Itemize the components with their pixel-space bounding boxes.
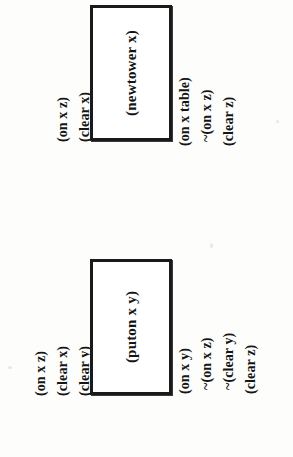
effect-literal: (clear z) [244, 345, 258, 394]
precondition-literal: (on x z) [56, 97, 70, 142]
scan-speck [210, 243, 213, 248]
precondition-literal: (clear x) [56, 346, 70, 396]
effect-literal: ~(on x z) [200, 89, 214, 142]
effect-literal: (clear z) [222, 97, 236, 146]
effect-literal: ~(clear y) [222, 333, 236, 390]
precondition-literal: (on x z) [34, 351, 48, 396]
figure-canvas: (on x z) (clear x) (newtower x) (on x ta… [0, 0, 293, 457]
operator-box-newtower: (newtower x) [90, 5, 172, 141]
effect-literal: (on x table) [178, 77, 192, 146]
operator-box-label: (puton x y) [123, 291, 140, 363]
scan-speck [276, 120, 279, 123]
effect-literal: (on x y) [178, 348, 192, 394]
operator-box-puton: (puton x y) [90, 259, 172, 395]
scan-speck [8, 366, 12, 369]
operator-box-label: (newtower x) [123, 30, 140, 116]
effect-literal: ~(on x z) [200, 337, 214, 390]
